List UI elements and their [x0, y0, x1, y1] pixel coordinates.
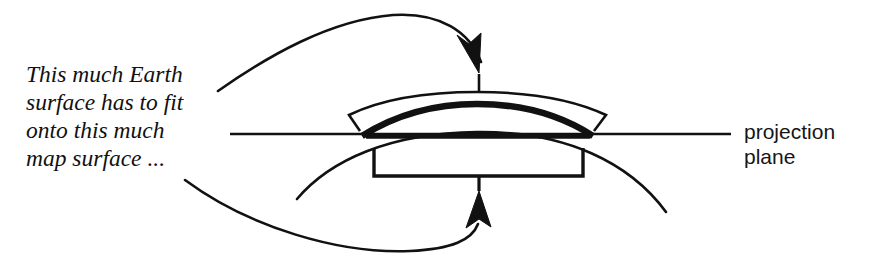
arrowhead-down-icon: [457, 33, 481, 73]
projection-plane-label: projection plane: [744, 119, 835, 169]
callout-text: This much Earth surface has to fit onto …: [26, 60, 236, 172]
projection-diagram-figure: This much Earth surface has to fit onto …: [0, 0, 883, 265]
earth-surface-pointer-arrow: [218, 15, 481, 91]
arrowhead-up-icon: [466, 191, 491, 228]
map-extent-bracket: [374, 148, 583, 176]
map-surface-pointer-arrow: [185, 180, 491, 251]
